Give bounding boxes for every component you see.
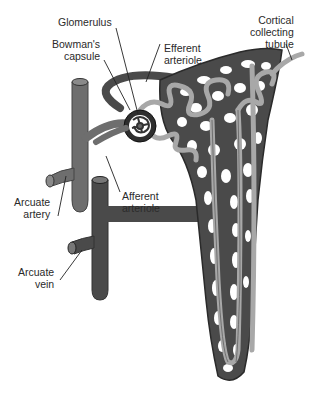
arcuate-artery xyxy=(46,79,130,213)
label-arcuate-vein: Arcuate vein xyxy=(18,266,54,290)
label-efferent-arteriole: Efferent arteriole xyxy=(164,42,202,66)
label-afferent-arteriole: Afferent arteriole xyxy=(122,190,160,214)
label-bowmans-capsule: Bowman's capsule xyxy=(52,38,100,62)
label-glomerulus: Glomerulus xyxy=(58,16,112,28)
label-cortical-collecting-tubule: Cortical collecting tubule xyxy=(250,14,294,50)
label-arcuate-artery: Arcuate artery xyxy=(14,196,50,220)
